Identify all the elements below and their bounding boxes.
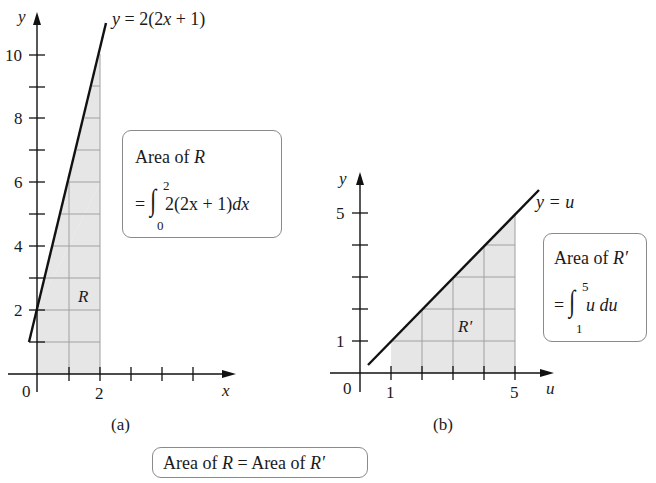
curve-label-x: x: [163, 9, 171, 29]
panel-a-x-axis-label: x: [222, 382, 230, 399]
panel-b-u-axis-label: u: [546, 380, 555, 397]
panel-a-y-axis-label: y: [18, 8, 26, 25]
y-tick-label-8: 8: [14, 110, 23, 127]
area-of-r-prime-eq-sign: =: [554, 296, 564, 314]
panel-b-caption: (b): [433, 416, 453, 433]
upper-limit: 5: [582, 280, 589, 293]
panel-b-graph: [330, 172, 554, 392]
area-equality-text: Area of R = Area of R′: [163, 454, 325, 472]
upper-limit: 2: [163, 179, 170, 192]
integral-sign-icon: ∫: [150, 185, 156, 215]
lower-limit: 1: [576, 322, 583, 335]
panel-a-origin-label: 0: [22, 383, 31, 400]
integral-sign-icon: ∫: [569, 286, 575, 316]
u-tick-label-1: 1: [386, 384, 395, 401]
area-equality-box: Area of R = Area of R′: [152, 447, 368, 478]
y-tick-label-6: 6: [14, 174, 23, 191]
integrand: 2(2x + 1)dx: [165, 195, 249, 213]
x-tick-label-2: 2: [95, 385, 104, 402]
curve-label-end: + 1): [176, 9, 206, 29]
y-axis-arrow-icon: [33, 12, 41, 25]
region-r-label: R: [78, 288, 88, 305]
region-r-prime-label: R′: [458, 318, 472, 335]
area-of-r-box: Area of R = ∫ 2 0 2(2x + 1)dx: [122, 130, 282, 238]
y-tick-label-10: 10: [5, 47, 22, 64]
panel-b-y-axis-label: y: [339, 170, 347, 187]
u-tick-label-5: 5: [510, 384, 519, 401]
y-tick-label-2: 2: [14, 302, 23, 319]
panel-a-caption: (a): [111, 416, 130, 433]
u-axis-arrow-icon: [540, 369, 554, 377]
curve-label-eq: = 2(2: [125, 9, 164, 29]
panel-b-y-tick-label-1: 1: [336, 333, 345, 350]
panel-b-y-tick-label-5: 5: [336, 205, 345, 222]
area-of-r-title: Area of R: [135, 148, 205, 166]
x-axis-arrow-icon: [222, 370, 236, 378]
panel-a-curve-label: y = 2(2x + 1): [112, 10, 205, 28]
curve-label-y: y: [112, 9, 120, 29]
y-axis-arrow-icon: [356, 172, 364, 185]
integrand: u du: [586, 296, 618, 314]
lower-limit: 0: [157, 219, 164, 232]
panel-b-curve-label: y = u: [536, 193, 574, 211]
panel-b-origin-label: 0: [343, 380, 352, 397]
y-tick-label-4: 4: [14, 238, 23, 255]
area-of-r-prime-box: Area of R′ = ∫ 5 1 u du: [543, 233, 647, 342]
area-of-r-prime-title: Area of R′: [554, 249, 628, 267]
area-of-r-eq-sign: =: [135, 195, 145, 213]
